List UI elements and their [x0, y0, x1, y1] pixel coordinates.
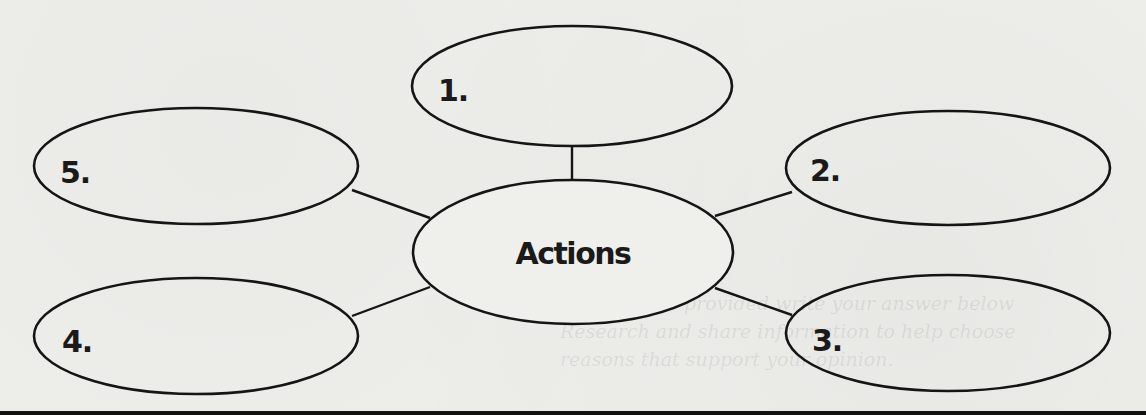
- node-5-label: 5.: [60, 155, 90, 190]
- connector-5: [352, 190, 430, 218]
- connector-2: [715, 192, 792, 216]
- center-node[interactable]: Actions: [413, 180, 733, 324]
- center-node-label: Actions: [516, 236, 632, 271]
- page-bottom-rule: [0, 411, 1146, 415]
- node-4[interactable]: 4.: [34, 278, 358, 394]
- svg-text:reasons that support your opin: reasons that support your opinion.: [560, 348, 894, 370]
- concept-web-diagram: In the space provided write your answer …: [0, 0, 1146, 415]
- node-5[interactable]: 5.: [34, 108, 358, 224]
- node-2-label: 2.: [810, 153, 840, 188]
- node-2[interactable]: 2.: [786, 111, 1110, 225]
- node-1[interactable]: 1.: [412, 26, 732, 146]
- node-1-label: 1.: [438, 73, 468, 108]
- node-4-label: 4.: [62, 324, 92, 359]
- node-3-label: 3.: [812, 323, 842, 358]
- connector-4: [352, 287, 430, 316]
- worksheet-page: In the space provided write your answer …: [0, 0, 1146, 415]
